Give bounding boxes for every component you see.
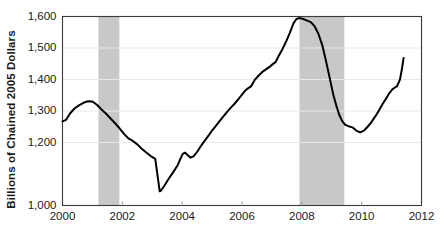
x-tick-label: 2006 bbox=[229, 210, 255, 222]
y-tick-label: 1,400 bbox=[28, 73, 57, 85]
x-tick-label: 2000 bbox=[50, 210, 76, 222]
y-tick-label: 1,600 bbox=[28, 10, 57, 22]
x-tick-label: 2002 bbox=[110, 210, 136, 222]
x-axis-tick-labels: 2000200220042006200820102012 bbox=[50, 210, 435, 222]
y-tick-label: 1,200 bbox=[28, 136, 57, 148]
x-tick-label: 2010 bbox=[349, 210, 375, 222]
x-tick-label: 2008 bbox=[289, 210, 315, 222]
x-tick-label: 2004 bbox=[169, 210, 195, 222]
x-tick-label: 2012 bbox=[409, 210, 435, 222]
y-tick-label: 1,500 bbox=[28, 41, 57, 53]
y-axis-tick-labels: 1,0001,2001,3001,4001,5001,600 bbox=[28, 10, 57, 211]
line-chart-plot: 1,0001,2001,3001,4001,5001,600 200020022… bbox=[0, 0, 443, 239]
chart-figure: Billions of Chained 2005 Dollars 1,0001,… bbox=[0, 0, 443, 239]
y-tick-label: 1,300 bbox=[28, 104, 57, 116]
